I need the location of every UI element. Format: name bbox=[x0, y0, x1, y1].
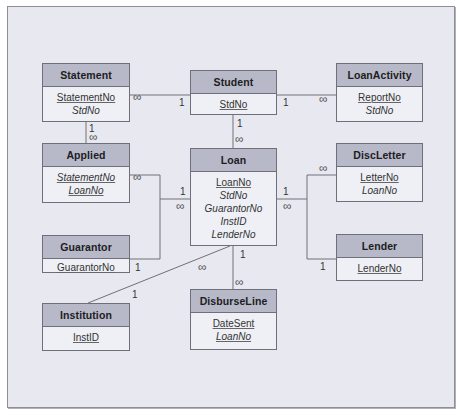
field-stdno: StdNo bbox=[191, 189, 276, 202]
entity-student[interactable]: Student StdNo bbox=[190, 70, 277, 115]
card-disburseline-many: ∞ bbox=[235, 277, 244, 287]
field-loanno: LoanNo bbox=[191, 330, 276, 343]
entity-statement[interactable]: Statement StatementNo StdNo bbox=[42, 63, 130, 122]
entity-title: Institution bbox=[43, 304, 129, 327]
card-loan-one-right: 1 bbox=[283, 187, 289, 197]
card-student-one-down: 1 bbox=[237, 119, 243, 129]
card-loanactivity-many: ∞ bbox=[319, 94, 328, 104]
field-letterno: LetterNo bbox=[337, 171, 422, 184]
field-stdno: StdNo bbox=[337, 104, 422, 117]
entity-applied[interactable]: Applied StatementNo LoanNo bbox=[42, 143, 130, 203]
card-student-one-left: 1 bbox=[179, 98, 185, 108]
entity-institution[interactable]: Institution InstID bbox=[42, 303, 130, 351]
entity-title: Statement bbox=[43, 64, 129, 87]
entity-title: Lender bbox=[337, 235, 422, 258]
entity-loanactivity[interactable]: LoanActivity ReportNo StdNo bbox=[336, 63, 423, 122]
entity-guarantor[interactable]: Guarantor GuarantorNo bbox=[42, 235, 130, 273]
field-instid: InstID bbox=[191, 215, 276, 228]
entity-disburseline[interactable]: DisburseLine DateSent LoanNo bbox=[190, 289, 277, 350]
entity-title: Applied bbox=[43, 144, 129, 167]
card-loan-many-right: ∞ bbox=[283, 201, 292, 211]
field-loanno: LoanNo bbox=[43, 184, 129, 197]
rel-lender-loan bbox=[307, 199, 336, 259]
field-lenderno: LenderNo bbox=[337, 262, 422, 275]
card-applied-many-top: ∞ bbox=[89, 132, 98, 142]
entity-title: Guarantor bbox=[43, 236, 129, 259]
field-stdno: StdNo bbox=[43, 104, 129, 117]
card-discletter-many: ∞ bbox=[319, 163, 328, 173]
card-loan-many-top: ∞ bbox=[235, 134, 244, 144]
field-stdno: StdNo bbox=[191, 98, 276, 111]
field-statementno: StatementNo bbox=[43, 91, 129, 104]
card-institution-one: 1 bbox=[132, 290, 138, 300]
card-statement-many: ∞ bbox=[133, 92, 142, 102]
entity-loan[interactable]: Loan LoanNo StdNo GuarantorNo InstID Len… bbox=[190, 148, 277, 246]
field-guarantorno: GuarantorNo bbox=[191, 202, 276, 215]
field-reportno: ReportNo bbox=[337, 91, 422, 104]
card-loan-many-left: ∞ bbox=[176, 201, 185, 211]
entity-title: Student bbox=[191, 71, 276, 94]
rel-guarantor-loan bbox=[130, 199, 160, 259]
field-datesent: DateSent bbox=[191, 317, 276, 330]
entity-discletter[interactable]: DiscLetter LetterNo LoanNo bbox=[336, 143, 423, 202]
entity-title: DisburseLine bbox=[191, 290, 276, 313]
card-student-one-right: 1 bbox=[283, 98, 289, 108]
entity-title: DiscLetter bbox=[337, 144, 422, 167]
field-guarantorno: GuarantorNo bbox=[43, 261, 129, 274]
field-statementno: StatementNo bbox=[43, 171, 129, 184]
card-loan-one-down: 1 bbox=[240, 250, 246, 260]
card-applied-many-right: ∞ bbox=[133, 172, 142, 182]
entity-title: LoanActivity bbox=[337, 64, 422, 87]
field-lenderno: LenderNo bbox=[191, 228, 276, 241]
card-loan-one-left: 1 bbox=[180, 187, 186, 197]
card-guarantor-one: 1 bbox=[135, 263, 141, 273]
field-loanno: LoanNo bbox=[337, 184, 422, 197]
field-instid: InstID bbox=[43, 331, 129, 344]
card-loan-many-bottom-left: ∞ bbox=[198, 262, 207, 272]
entity-lender[interactable]: Lender LenderNo bbox=[336, 234, 423, 281]
field-loanno: LoanNo bbox=[191, 176, 276, 189]
entity-title: Loan bbox=[191, 149, 276, 172]
card-lender-one: 1 bbox=[320, 262, 326, 272]
